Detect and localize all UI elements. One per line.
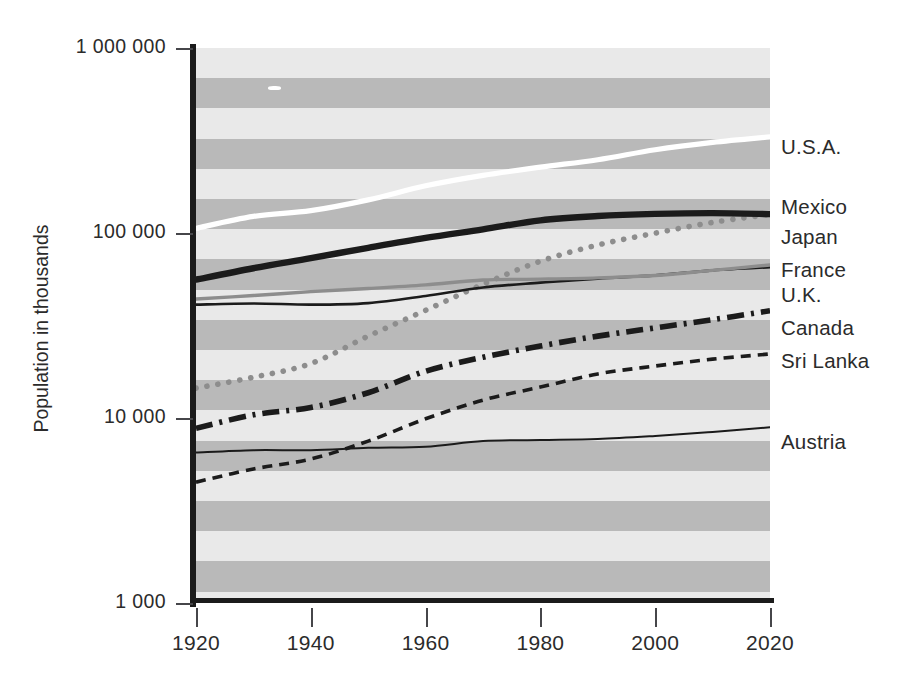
x-tick-label: 1940 bbox=[266, 631, 356, 655]
x-tick-label: 1980 bbox=[495, 631, 585, 655]
x-tick-mark bbox=[655, 608, 657, 627]
y-axis-title: Population in thousands bbox=[30, 119, 53, 539]
x-tick-label: 2000 bbox=[610, 631, 700, 655]
series-line-japan bbox=[196, 213, 770, 279]
y-axis-line bbox=[190, 44, 196, 607]
x-tick-label: 1960 bbox=[381, 631, 471, 655]
series-label-mexico: Mexico bbox=[781, 195, 847, 219]
series-line-austria bbox=[196, 427, 770, 452]
series-label-sri-lanka: Sri Lanka bbox=[781, 349, 869, 373]
scan-artifact-speck bbox=[268, 86, 281, 90]
series-label-u-k: U.K. bbox=[781, 283, 822, 307]
series-label-france: France bbox=[781, 258, 846, 282]
x-tick-label: 2020 bbox=[725, 631, 815, 655]
series-label-japan: Japan bbox=[781, 225, 838, 249]
x-tick-mark bbox=[196, 608, 198, 627]
population-line-chart: 1 000 000100 00010 0001 000 Population i… bbox=[0, 0, 913, 677]
y-tick-label: 1 000 bbox=[26, 590, 166, 613]
series-label-canada: Canada bbox=[781, 316, 854, 340]
series-line-u-k bbox=[196, 265, 770, 299]
x-tick-label: 1920 bbox=[151, 631, 241, 655]
series-label-u-s-a: U.S.A. bbox=[781, 135, 841, 159]
x-tick-mark bbox=[540, 608, 542, 627]
series-line-mexico bbox=[196, 214, 770, 388]
y-tick-mark bbox=[176, 418, 193, 420]
x-tick-mark bbox=[426, 608, 428, 627]
y-tick-mark bbox=[176, 603, 193, 605]
x-axis-line bbox=[190, 598, 774, 603]
y-tick-label: 1 000 000 bbox=[26, 35, 166, 58]
y-tick-mark bbox=[176, 233, 193, 235]
x-tick-mark bbox=[311, 608, 313, 627]
y-tick-mark bbox=[176, 48, 193, 50]
x-tick-mark bbox=[770, 608, 772, 627]
series-label-austria: Austria bbox=[781, 430, 846, 454]
series-lines bbox=[196, 48, 770, 603]
plot-area bbox=[196, 48, 770, 603]
